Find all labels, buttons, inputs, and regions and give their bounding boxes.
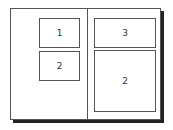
panel-divider [87, 9, 88, 119]
left-box-1: 1 [39, 18, 80, 48]
left-box-2: 2 [39, 51, 80, 81]
box-label: 2 [122, 76, 128, 86]
right-box-3: 3 [94, 18, 156, 48]
box-label: 3 [122, 28, 128, 38]
page-layout: 1 2 3 2 [10, 8, 161, 120]
box-label: 1 [57, 28, 63, 38]
right-box-2: 2 [94, 50, 156, 112]
box-label: 2 [57, 61, 63, 71]
